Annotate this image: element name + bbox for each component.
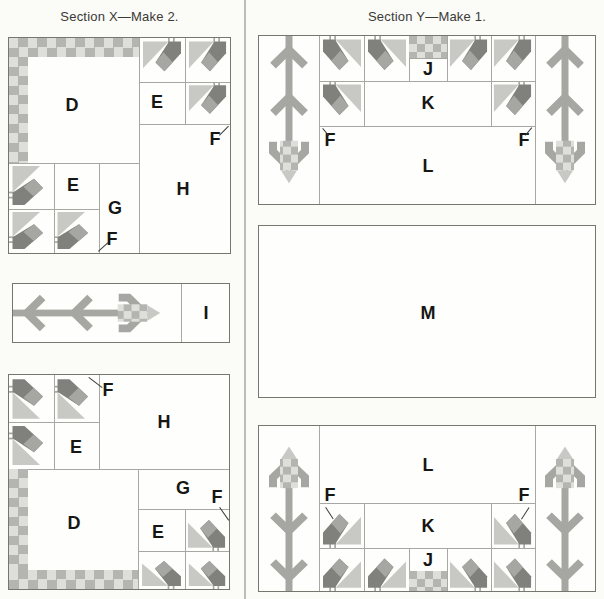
branch-motif-icon <box>535 36 595 204</box>
branch-motif-icon <box>259 36 319 204</box>
patch-label-e: E <box>151 93 163 111</box>
bird-block-icon <box>447 548 491 591</box>
patch-label-g: G <box>176 479 190 497</box>
bird-block-icon <box>54 375 99 422</box>
branch-motif-icon <box>259 426 319 591</box>
bird-block-icon <box>139 552 185 589</box>
bird-block-icon <box>319 81 364 126</box>
bird-block-icon <box>319 36 364 81</box>
section-y-middle-unit: M <box>258 225 596 398</box>
patch-label-d: D <box>66 96 79 114</box>
section-x-top-unit: D E G F E F H <box>8 37 231 254</box>
section-x-bottom-unit: E F H D G E F <box>8 374 230 590</box>
patch-label-j: J <box>423 551 433 569</box>
patch-label-g: G <box>108 199 122 217</box>
patch-label-e: E <box>70 438 82 456</box>
patch-label-k: K <box>422 517 435 535</box>
patch-label-f: F <box>325 486 336 504</box>
bird-block-icon <box>186 82 230 124</box>
leader-line <box>219 126 229 136</box>
bird-block-icon <box>9 209 54 253</box>
quilt-assembly-diagram: Section X—Make 2. Section Y—Make 1. D E … <box>0 0 604 599</box>
branch-motif-icon <box>13 284 181 342</box>
checkerboard-border <box>9 570 138 589</box>
patch-label-h: H <box>177 180 190 198</box>
patch-label-e: E <box>67 176 79 194</box>
patch-label-f: F <box>103 381 114 399</box>
bird-block-icon <box>186 38 230 82</box>
section-x-title: Section X—Make 2. <box>8 9 231 24</box>
patch-label-k: K <box>422 94 435 112</box>
bird-block-icon <box>140 38 185 82</box>
patch-label-l: L <box>423 456 434 474</box>
bird-block-icon <box>491 81 535 126</box>
bird-block-icon <box>9 422 54 468</box>
patch-label-f: F <box>210 130 221 148</box>
section-y-bottom-unit: L K J F F <box>258 425 596 592</box>
patch-label-j: J <box>423 60 433 78</box>
patch-label-f: F <box>519 486 530 504</box>
patch-label-i: I <box>203 304 208 322</box>
bird-block-icon <box>491 36 535 81</box>
patch-label-m: M <box>421 304 436 322</box>
patch-label-h: H <box>158 413 171 431</box>
bird-block-icon <box>447 36 491 81</box>
branch-motif-icon <box>535 426 595 591</box>
bird-block-icon <box>491 548 535 591</box>
section-y-title: Section Y—Make 1. <box>258 9 596 24</box>
patch-label-f: F <box>107 230 118 248</box>
checkerboard-border <box>9 38 139 57</box>
bird-block-icon <box>54 209 99 253</box>
section-y-top-unit: J K L F F <box>258 35 596 205</box>
checkerboard-patch <box>409 36 447 58</box>
bird-block-icon <box>185 510 229 551</box>
patch-label-e: E <box>152 523 164 541</box>
bird-block-icon <box>364 36 409 81</box>
bird-block-icon <box>9 163 54 209</box>
section-x-strip-unit: I <box>12 283 230 343</box>
patch-label-d: D <box>68 514 81 532</box>
bird-block-icon <box>186 552 229 589</box>
bird-block-icon <box>319 548 364 591</box>
checkerboard-border <box>9 57 28 163</box>
section-divider <box>244 0 246 599</box>
patch-label-l: L <box>423 157 434 175</box>
patch-label-f: F <box>212 488 223 506</box>
bird-block-icon <box>364 548 409 591</box>
checkerboard-patch <box>409 571 447 591</box>
bird-block-icon <box>9 375 54 422</box>
